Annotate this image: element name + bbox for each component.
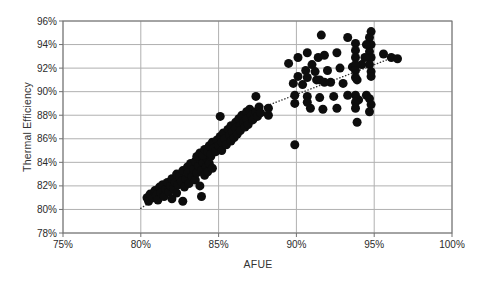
data-point [343, 33, 352, 42]
data-point [256, 108, 265, 117]
data-point [208, 164, 217, 173]
data-point [320, 51, 329, 60]
data-point [339, 79, 348, 88]
scatter-plot: 78%80%82%84%86%88%90%92%94%96%75%80%85%9… [0, 0, 477, 281]
data-point [195, 181, 204, 190]
plot-border [63, 21, 452, 233]
y-tick-label: 78% [37, 228, 57, 239]
data-point [311, 67, 320, 76]
x-tick-label: 85% [209, 239, 229, 250]
y-tick-label: 94% [37, 39, 57, 50]
data-point [360, 53, 369, 62]
data-point [323, 66, 332, 75]
data-point [172, 189, 181, 198]
data-point [284, 59, 293, 68]
data-point [320, 78, 329, 87]
data-point [303, 73, 312, 82]
y-tick-label: 88% [37, 110, 57, 121]
data-point [332, 48, 341, 57]
data-point [251, 92, 260, 101]
y-axis-title: Thermal Efficiency [21, 82, 33, 172]
data-point [365, 107, 374, 116]
x-tick-label: 75% [53, 239, 73, 250]
y-tick-label: 92% [37, 63, 57, 74]
data-point [312, 75, 321, 84]
data-point [290, 140, 299, 149]
x-tick-label: 100% [439, 239, 465, 250]
data-point [264, 111, 273, 120]
data-point [351, 73, 360, 82]
y-tick-label: 96% [37, 16, 57, 27]
data-point [294, 53, 303, 62]
data-point [367, 72, 376, 81]
data-point [379, 50, 388, 59]
data-point [332, 104, 341, 113]
data-point [317, 31, 326, 40]
data-point [318, 105, 327, 114]
data-point [351, 104, 360, 113]
data-point [290, 99, 299, 108]
data-point [393, 54, 402, 63]
y-tick-label: 80% [37, 204, 57, 215]
y-tick-label: 84% [37, 157, 57, 168]
x-tick-label: 95% [364, 239, 384, 250]
data-point [353, 118, 362, 127]
data-point [178, 197, 187, 206]
data-point [216, 112, 225, 121]
data-point [329, 92, 338, 101]
chart-container: 78%80%82%84%86%88%90%92%94%96%75%80%85%9… [0, 0, 477, 281]
x-axis-title: AFUE [244, 258, 273, 270]
data-point [303, 48, 312, 57]
y-tick-label: 86% [37, 133, 57, 144]
y-tick-label: 82% [37, 180, 57, 191]
data-point [303, 98, 312, 107]
y-tick-label: 90% [37, 86, 57, 97]
data-point [294, 72, 303, 81]
data-point [290, 91, 299, 100]
data-point [343, 91, 352, 100]
data-point [336, 64, 345, 73]
data-point [362, 40, 371, 49]
x-tick-label: 90% [286, 239, 306, 250]
x-tick-label: 80% [131, 239, 151, 250]
data-point [197, 192, 206, 201]
data-point [315, 93, 324, 102]
